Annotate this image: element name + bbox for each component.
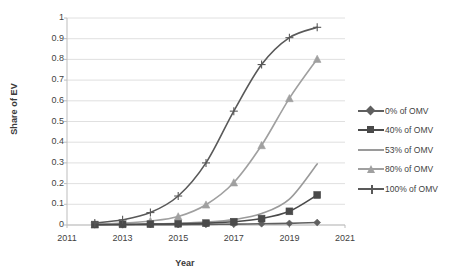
legend-key-none-icon <box>358 144 384 156</box>
marker-triangle <box>313 55 321 62</box>
legend-item[interactable]: 53% of OMV <box>358 140 469 160</box>
series-100-of-omv <box>91 23 321 227</box>
chart-container: Share of EV 00.10.20.30.40.50.60.70.80.9… <box>0 0 469 280</box>
series-line <box>95 59 317 224</box>
legend-item[interactable]: 80% of OMV <box>358 160 469 180</box>
marker-square <box>286 208 293 215</box>
legend-key-diamond-icon <box>358 105 384 117</box>
series-line <box>95 164 317 225</box>
legend-marker-plus-icon <box>367 185 376 194</box>
series-line <box>95 27 317 223</box>
legend-item[interactable]: 0% of OMV <box>358 101 469 121</box>
marker-diamond <box>286 220 293 227</box>
legend-label: 80% of OMV <box>384 164 433 174</box>
gridlines <box>67 18 345 225</box>
legend-key-square-icon <box>358 124 384 136</box>
legend-label: 0% of OMV <box>384 106 428 116</box>
legend-marker-square-icon <box>367 126 374 133</box>
legend-item[interactable]: 40% of OMV <box>358 121 469 141</box>
marker-square <box>203 220 210 227</box>
legend-key-plus-icon <box>358 183 384 195</box>
legend-label: 53% of OMV <box>384 145 433 155</box>
legend-line <box>358 149 384 151</box>
legend-label: 100% of OMV <box>384 184 438 194</box>
marker-square <box>314 192 321 199</box>
legend-marker-triangle-icon <box>367 165 375 173</box>
marker-square <box>230 218 237 225</box>
legend-item[interactable]: 100% of OMV <box>358 179 469 199</box>
legend-label: 40% of OMV <box>384 125 433 135</box>
chart-legend: 0% of OMV40% of OMV53% of OMV80% of OMV1… <box>358 101 469 199</box>
series-40-of-omv <box>91 192 320 228</box>
series-53-of-omv <box>95 164 317 225</box>
x-axis-title: Year <box>60 258 310 268</box>
legend-key-triangle-icon <box>358 163 384 175</box>
legend-marker-diamond-icon <box>366 105 376 115</box>
marker-square <box>147 221 154 228</box>
marker-square <box>258 215 265 222</box>
marker-square <box>175 220 182 227</box>
